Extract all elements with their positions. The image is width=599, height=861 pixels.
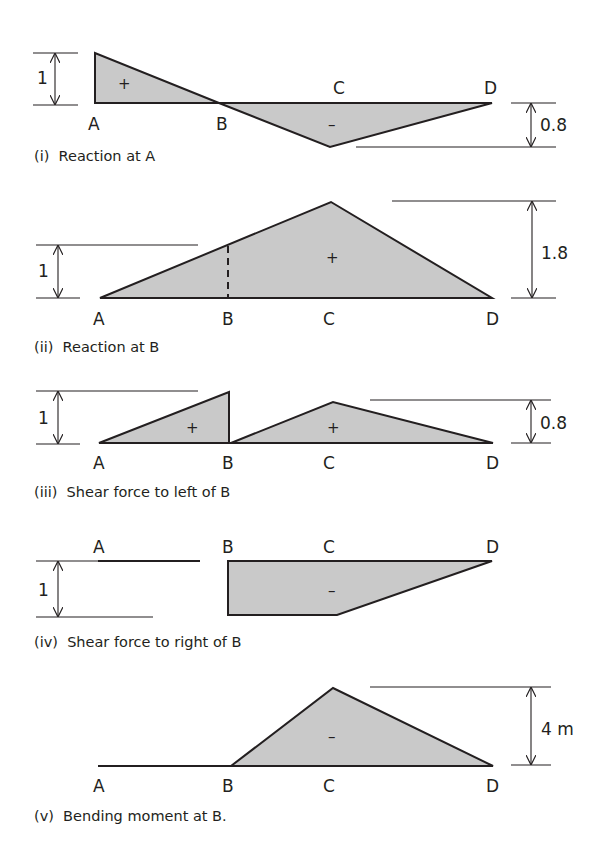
sign-negative: –	[328, 582, 336, 600]
negative-region	[228, 561, 492, 615]
caption: (iv) Shear force to right of B	[34, 634, 241, 650]
sign-positive: +	[118, 75, 131, 93]
dimension-label-1-8: 1.8	[541, 243, 568, 263]
sign-negative: –	[328, 728, 336, 746]
sign-positive: +	[326, 249, 339, 267]
dimension-label-0-8: 0.8	[540, 115, 567, 135]
dimension-label-1: 1	[38, 408, 49, 428]
point-label-d: D	[486, 309, 499, 329]
point-label-b: B	[222, 309, 234, 329]
point-label-c: C	[323, 453, 335, 473]
sign-positive: +	[327, 419, 340, 437]
point-label-a: A	[93, 453, 105, 473]
dimension-label-0-8: 0.8	[540, 413, 567, 433]
point-label-b: B	[216, 114, 228, 134]
point-label-c: C	[323, 309, 335, 329]
dimension-label-1: 1	[38, 580, 49, 600]
negative-region	[231, 688, 493, 766]
diagram-shear-left-of-b: + + 1 0.8 A B C D (iii) Shear force to l…	[34, 391, 567, 500]
point-label-a: A	[93, 537, 105, 557]
point-label-d: D	[486, 537, 499, 557]
caption: (iii) Shear force to left of B	[34, 484, 230, 500]
point-label-d: D	[486, 453, 499, 473]
point-label-c: C	[323, 776, 335, 796]
dimension-label-4m: 4 m	[541, 719, 574, 739]
caption: (i) Reaction at A	[34, 148, 155, 164]
diagram-reaction-at-a: + – 1 0.8 A B C D (i) Reaction at A	[33, 53, 567, 164]
diagram-reaction-at-b: + 1 1.8 A B C D (ii) Reaction at B	[34, 201, 568, 355]
point-label-a: A	[88, 114, 100, 134]
positive-region-ab	[99, 392, 229, 443]
dimension-label-1: 1	[37, 68, 48, 88]
negative-region	[219, 103, 492, 147]
point-label-c: C	[333, 78, 345, 98]
point-label-b: B	[222, 537, 234, 557]
sign-negative: –	[328, 116, 336, 134]
point-label-d: D	[486, 776, 499, 796]
point-label-a: A	[93, 309, 105, 329]
caption: (v) Bending moment at B.	[34, 808, 227, 824]
caption: (ii) Reaction at B	[34, 339, 159, 355]
point-label-a: A	[93, 776, 105, 796]
point-label-b: B	[222, 453, 234, 473]
sign-positive: +	[186, 419, 199, 437]
influence-line-diagrams: + – 1 0.8 A B C D (i) Reaction at A + 1 …	[0, 0, 599, 861]
point-label-c: C	[323, 537, 335, 557]
diagram-bending-moment-at-b: – 4 m A B C D (v) Bending moment at B.	[34, 687, 574, 824]
diagram-shear-right-of-b: – 1 A B C D (iv) Shear force to right of…	[34, 537, 499, 650]
dimension-label-1: 1	[38, 261, 49, 281]
positive-region-bd	[231, 402, 493, 443]
point-label-b: B	[222, 776, 234, 796]
positive-region	[95, 53, 219, 103]
point-label-d: D	[484, 78, 497, 98]
positive-region	[100, 202, 492, 298]
